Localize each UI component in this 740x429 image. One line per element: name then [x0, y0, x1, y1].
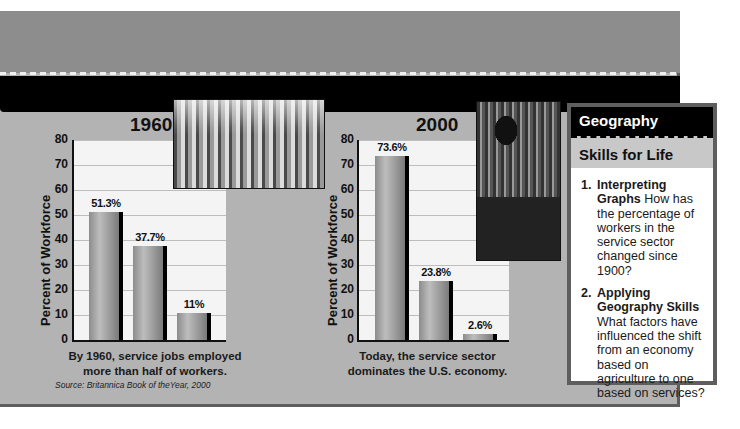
caption-line: By 1960, service jobs employed	[60, 349, 250, 364]
caption-line: more than half of workers.	[60, 364, 250, 379]
skills-subheader: Skills for Life	[571, 136, 713, 168]
question-item: 2. Applying Geography Skills What factor…	[581, 286, 709, 400]
question-text: What factors have influenced the shift f…	[597, 315, 705, 400]
skills-header: Geography	[571, 107, 713, 136]
y-tick-label: 70	[46, 157, 68, 171]
source-note: Source: Britannica Book of theYear, 2000	[55, 380, 210, 390]
bar-service	[375, 156, 409, 340]
caption-line: Today, the service sector	[340, 349, 515, 364]
chart-caption: By 1960, service jobs employed more than…	[60, 349, 250, 379]
y-tick-label: 10	[46, 307, 68, 321]
y-tick-label: 20	[332, 282, 354, 296]
y-tick-label: 10	[332, 307, 354, 321]
bar-value-label: 2.6%	[455, 319, 505, 331]
bar-value-label: 11%	[169, 298, 219, 310]
bar-agriculture	[177, 313, 211, 341]
y-tick-label: 80	[332, 132, 354, 146]
bar-value-label: 73.6%	[367, 141, 417, 153]
bar-value-label: 37.7%	[125, 231, 175, 243]
question-body: Interpreting Graphs How has the percenta…	[597, 178, 709, 278]
chart-title: 2000	[416, 114, 458, 136]
bar-value-label: 51.3%	[81, 197, 131, 209]
y-tick-label: 30	[332, 257, 354, 271]
y-tick-label: 20	[46, 282, 68, 296]
y-tick-label: 0	[46, 332, 68, 346]
chart-caption: Today, the service sector dominates the …	[340, 349, 515, 379]
question-title: Applying Geography Skills	[597, 286, 699, 314]
bar-industry	[133, 246, 167, 340]
y-tick-label: 70	[332, 157, 354, 171]
y-tick-label: 60	[46, 182, 68, 196]
skills-question-list: 1. Interpreting Graphs How has the perce…	[571, 168, 713, 400]
y-tick-label: 40	[46, 232, 68, 246]
dashed-divider	[0, 72, 680, 75]
question-number: 1.	[581, 178, 597, 278]
y-tick-label: 30	[46, 257, 68, 271]
supermarket-photo	[173, 99, 325, 189]
y-tick-label: 50	[332, 207, 354, 221]
bar-service	[89, 212, 123, 340]
y-tick-label: 40	[332, 232, 354, 246]
caption-line: dominates the U.S. economy.	[340, 364, 515, 379]
y-tick-label: 50	[46, 207, 68, 221]
question-body: Applying Geography Skills What factors h…	[597, 286, 709, 400]
technician-photo	[476, 101, 561, 261]
question-item: 1. Interpreting Graphs How has the perce…	[581, 178, 709, 278]
chart-title: 1960	[130, 114, 172, 136]
y-tick-label: 80	[46, 132, 68, 146]
bar-agriculture	[463, 334, 497, 341]
question-number: 2.	[581, 286, 597, 400]
y-tick-label: 0	[332, 332, 354, 346]
y-tick-label: 60	[332, 182, 354, 196]
bar-value-label: 23.8%	[411, 266, 461, 278]
skills-for-life-box: Geography Skills for Life 1. Interpretin…	[567, 103, 717, 385]
header-band	[0, 11, 680, 73]
bar-industry	[419, 281, 453, 341]
gridline	[74, 190, 226, 191]
